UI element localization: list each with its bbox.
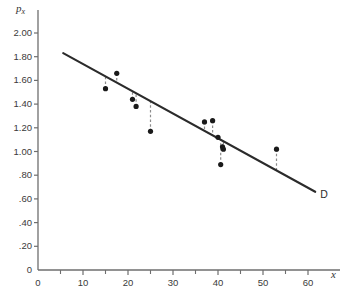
- y-tick-label: .80: [0, 169, 32, 180]
- axes: [34, 10, 340, 275]
- y-tick-label: .40: [0, 217, 32, 228]
- y-tick-label: 0: [0, 264, 32, 275]
- y-tick-label: 1.60: [0, 74, 32, 85]
- x-tick-label: 40: [205, 277, 231, 288]
- x-tick-label: 60: [295, 277, 321, 288]
- scatter-plot-figure: px x D 0.20.40.60.801.001.201.401.601.80…: [0, 0, 347, 296]
- x-tick-label: 10: [70, 277, 96, 288]
- plot-canvas: [0, 0, 347, 296]
- x-tick-label: 0: [25, 277, 51, 288]
- y-tick-label: .60: [0, 193, 32, 204]
- y-tick-label: .20: [0, 240, 32, 251]
- x-tick-label: 50: [250, 277, 276, 288]
- y-axis-title: px: [16, 2, 25, 16]
- data-points: [103, 71, 279, 167]
- regression-line: [63, 53, 315, 192]
- y-tick-label: 1.20: [0, 122, 32, 133]
- y-axis-title-subscript: x: [22, 7, 26, 16]
- fit-line-label: D: [320, 188, 328, 200]
- x-axis-title: x: [331, 268, 336, 280]
- x-tick-label: 30: [160, 277, 186, 288]
- y-tick-label: 1.80: [0, 51, 32, 62]
- y-tick-label: 2.00: [0, 27, 32, 38]
- y-tick-label: 1.40: [0, 98, 32, 109]
- y-tick-label: 1.00: [0, 146, 32, 157]
- x-tick-label: 20: [115, 277, 141, 288]
